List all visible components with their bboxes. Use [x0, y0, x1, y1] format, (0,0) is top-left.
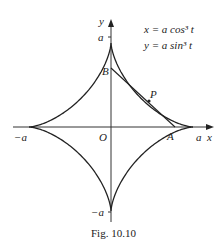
- x-axis-arrow-icon: [206, 124, 214, 130]
- y-axis-arrow-icon: [108, 19, 114, 27]
- point-a-label: A: [166, 130, 174, 142]
- x-axis-label: x: [206, 131, 212, 143]
- tick-label-y-neg-a: −a: [91, 206, 104, 218]
- tick-label-y-a: a: [98, 31, 104, 43]
- point-p-label: P: [149, 88, 157, 100]
- tick-label-x-a: a: [196, 131, 202, 143]
- equation-y: y = a sin³ t: [143, 39, 193, 51]
- y-axis-label: y: [98, 15, 104, 27]
- tick-label-x-neg-a: −a: [14, 131, 27, 143]
- tangent-line: [111, 68, 175, 127]
- point-b-label: B: [102, 65, 109, 77]
- origin-label: O: [99, 131, 107, 143]
- equation-x: x = a cos³ t: [143, 23, 195, 35]
- astroid-diagram: y x a −a −a a O A B P x = a cos³ t y = a…: [0, 0, 224, 244]
- figure-caption: Fig. 10.10: [91, 227, 136, 239]
